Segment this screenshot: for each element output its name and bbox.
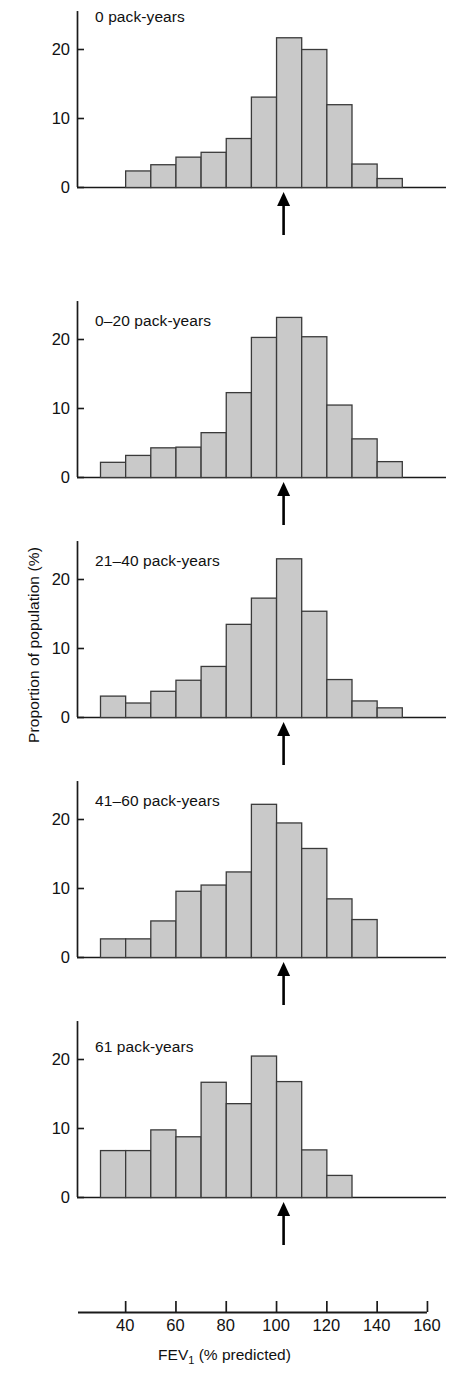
histogram-bar [302,848,327,957]
y-tick-label-0: 0 [61,708,70,726]
histogram-bar [251,598,276,717]
y-tick-label-20: 20 [52,810,70,828]
histogram-bar [251,97,276,187]
histogram-bar [251,804,276,957]
histogram-bar [226,393,251,478]
histogram-bar [251,337,276,477]
y-tick-label-20: 20 [52,570,70,588]
x-tick-label-80: 80 [217,1316,235,1334]
x-tick-label-160: 160 [413,1316,441,1334]
histogram-bar [302,337,327,478]
histogram-bar [126,171,151,188]
panel-title-0: 0 pack-years [95,8,185,26]
histogram-bar [277,317,302,477]
histogram-bar [101,462,126,477]
histogram-bar [176,157,201,187]
panel-1: 010200–20 pack-years [0,296,449,546]
panel-plot-0: 01020 [0,6,449,256]
y-tick-label-20: 20 [52,40,70,58]
panel-title-3: 41–60 pack-years [95,792,220,810]
y-tick-label-10: 10 [52,109,70,127]
histogram-bar [201,433,226,478]
histogram-bar [226,139,251,188]
histogram-bar [201,152,226,187]
histogram-bar [302,50,327,188]
histogram-bar [201,666,226,717]
histogram-bar [226,872,251,958]
panel-0: 010200 pack-years [0,6,449,256]
histogram-bar [101,696,126,717]
y-tick-label-0: 0 [61,468,70,486]
histogram-bar [151,691,176,717]
histogram-bar [352,164,377,187]
histogram-bar [302,611,327,717]
histogram-bar [377,462,402,478]
y-tick-label-10: 10 [52,399,70,417]
histogram-bar [302,1150,327,1198]
y-tick-label-10: 10 [52,879,70,897]
histogram-bar [277,559,302,718]
y-tick-label-20: 20 [52,1050,70,1068]
x-axis-title-tail: (% predicted) [194,1346,290,1363]
panel-plot-2: 01020 [0,536,449,786]
x-axis-title: FEV1 (% predicted) [0,1346,449,1366]
histogram-bar [251,1056,276,1197]
histogram-bar [327,680,352,718]
histogram-bar [176,891,201,957]
mean-arrow-head [277,722,290,736]
histogram-bar [126,939,151,958]
panel-plot-1: 01020 [0,296,449,546]
histogram-bar [327,1175,352,1197]
histogram-bar [101,939,126,958]
histogram-bar [201,885,226,957]
histogram-bar [126,455,151,477]
histogram-bar [126,703,151,717]
histogram-bar [377,708,402,718]
figure-fev1-by-pack-years: Proportion of population (%) 010200 pack… [0,0,449,1384]
histogram-bar [327,405,352,477]
panel-3: 0102041–60 pack-years [0,776,449,1026]
histogram-bar [377,179,402,188]
panel-plot-3: 01020 [0,776,449,1026]
histogram-bar [277,1082,302,1198]
mean-arrow-head [277,962,290,976]
histogram-bar [226,1104,251,1198]
histogram-bar [176,447,201,477]
histogram-bar [176,680,201,717]
panel-title-2: 21–40 pack-years [95,552,220,570]
y-tick-label-0: 0 [61,948,70,966]
x-axis-title-main: FEV [158,1346,188,1363]
histogram-bar [226,624,251,717]
y-tick-label-0: 0 [61,1188,70,1206]
histogram-bar [151,1130,176,1198]
x-tick-label-60: 60 [166,1316,184,1334]
histogram-bar [151,165,176,188]
histogram-bar [327,105,352,188]
y-tick-label-10: 10 [52,1119,70,1137]
x-tick-label-120: 120 [313,1316,341,1334]
mean-arrow-head [277,482,290,496]
y-tick-label-10: 10 [52,639,70,657]
histogram-bar [126,1151,151,1198]
y-tick-label-20: 20 [52,330,70,348]
histogram-bar [201,1082,226,1197]
panel-plot-4: 01020 [0,1016,449,1266]
histogram-bar [176,1137,201,1198]
histogram-bar [327,899,352,958]
mean-arrow-head [277,1202,290,1216]
panel-title-4: 61 pack-years [95,1038,194,1056]
mean-arrow-head [277,192,290,206]
histogram-bar [352,701,377,718]
panel-title-1: 0–20 pack-years [95,312,211,330]
panel-4: 0102061 pack-years [0,1016,449,1266]
y-tick-label-0: 0 [61,178,70,196]
x-axis: 406080100120140160 [0,1290,449,1340]
x-tick-label-140: 140 [363,1316,391,1334]
histogram-bar [277,823,302,958]
histogram-bar [151,921,176,958]
histogram-bar [277,38,302,188]
histogram-bar [352,439,377,478]
histogram-bar [151,448,176,478]
histogram-bar [101,1151,126,1198]
panel-2: 0102021–40 pack-years [0,536,449,786]
